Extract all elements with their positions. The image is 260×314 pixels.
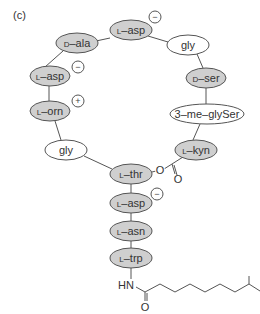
residue-label: L–trp (119, 252, 142, 264)
positive-charge-icon: + (72, 95, 84, 107)
svg-text:−: − (75, 62, 80, 72)
residue-l-asp-3: L–asp (110, 193, 152, 213)
amide-oxygen-label: O (141, 301, 150, 313)
residue-d-ser: D–ser (186, 68, 226, 88)
residue-l-thr: L–thr (110, 164, 152, 184)
residue-d-ala: D–ala (56, 33, 98, 53)
residue-label: L–asp (36, 70, 64, 82)
residue-l-asp-1: L–asp (110, 20, 152, 40)
residue-label: L–kyn (182, 144, 210, 156)
svg-text:−: − (152, 12, 157, 22)
bond-line (148, 36, 168, 42)
amide-nh-label: HN (118, 279, 134, 291)
ester-oxygen-label: O (156, 164, 165, 176)
residue-l-kyn: L–kyn (175, 140, 217, 160)
residue-label: L–thr (119, 168, 143, 180)
residue-gly-1: gly (167, 35, 209, 55)
residue-label: 3–me–glySer (175, 108, 240, 120)
carbonyl-oxygen-label: O (174, 173, 183, 185)
negative-charge-icon: − (72, 61, 84, 73)
alkyl-chain (136, 284, 260, 292)
residue-l-asp-2: L–asp (30, 66, 70, 86)
bond-line (193, 124, 200, 140)
residue-label: L–asn (117, 225, 145, 237)
negative-charge-icon: − (151, 188, 163, 200)
bond-line (164, 164, 172, 169)
bond-line (197, 54, 203, 68)
residue-label: gly (59, 144, 74, 156)
fatty-acid-tail: HNO (118, 276, 260, 313)
ester-linkage: OO (155, 164, 183, 185)
residue-3-me-glyser: 3–me–glySer (170, 104, 244, 124)
bond-line (45, 51, 63, 67)
svg-text:−: − (154, 189, 159, 199)
residue-l-trp: L–trp (110, 248, 152, 268)
residue-l-orn: L–orn (30, 101, 70, 121)
residue-nodes: L–aspD–alaglyL–aspD–serL–orn3–me–glySerg… (30, 20, 244, 268)
residue-label: gly (181, 39, 196, 51)
residue-label: L–orn (37, 105, 63, 117)
residue-gly-2: gly (45, 140, 87, 160)
peptide-ring-svg: HNO L–aspD–alaglyL–aspD–serL–orn3–me–gly… (0, 0, 260, 314)
negative-charge-icon: − (149, 11, 161, 23)
bond-line (55, 121, 61, 140)
bond-line (96, 38, 110, 41)
lipopeptide-diagram: (c) HNO L–aspD–alaglyL–aspD–serL–orn3–me… (0, 0, 260, 314)
residue-label: L–asp (117, 24, 145, 36)
residue-label: L–asp (117, 197, 145, 209)
residue-l-asn: L–asn (110, 221, 152, 241)
bond-line (172, 157, 183, 164)
bond-line (84, 156, 112, 169)
svg-text:+: + (75, 96, 80, 106)
